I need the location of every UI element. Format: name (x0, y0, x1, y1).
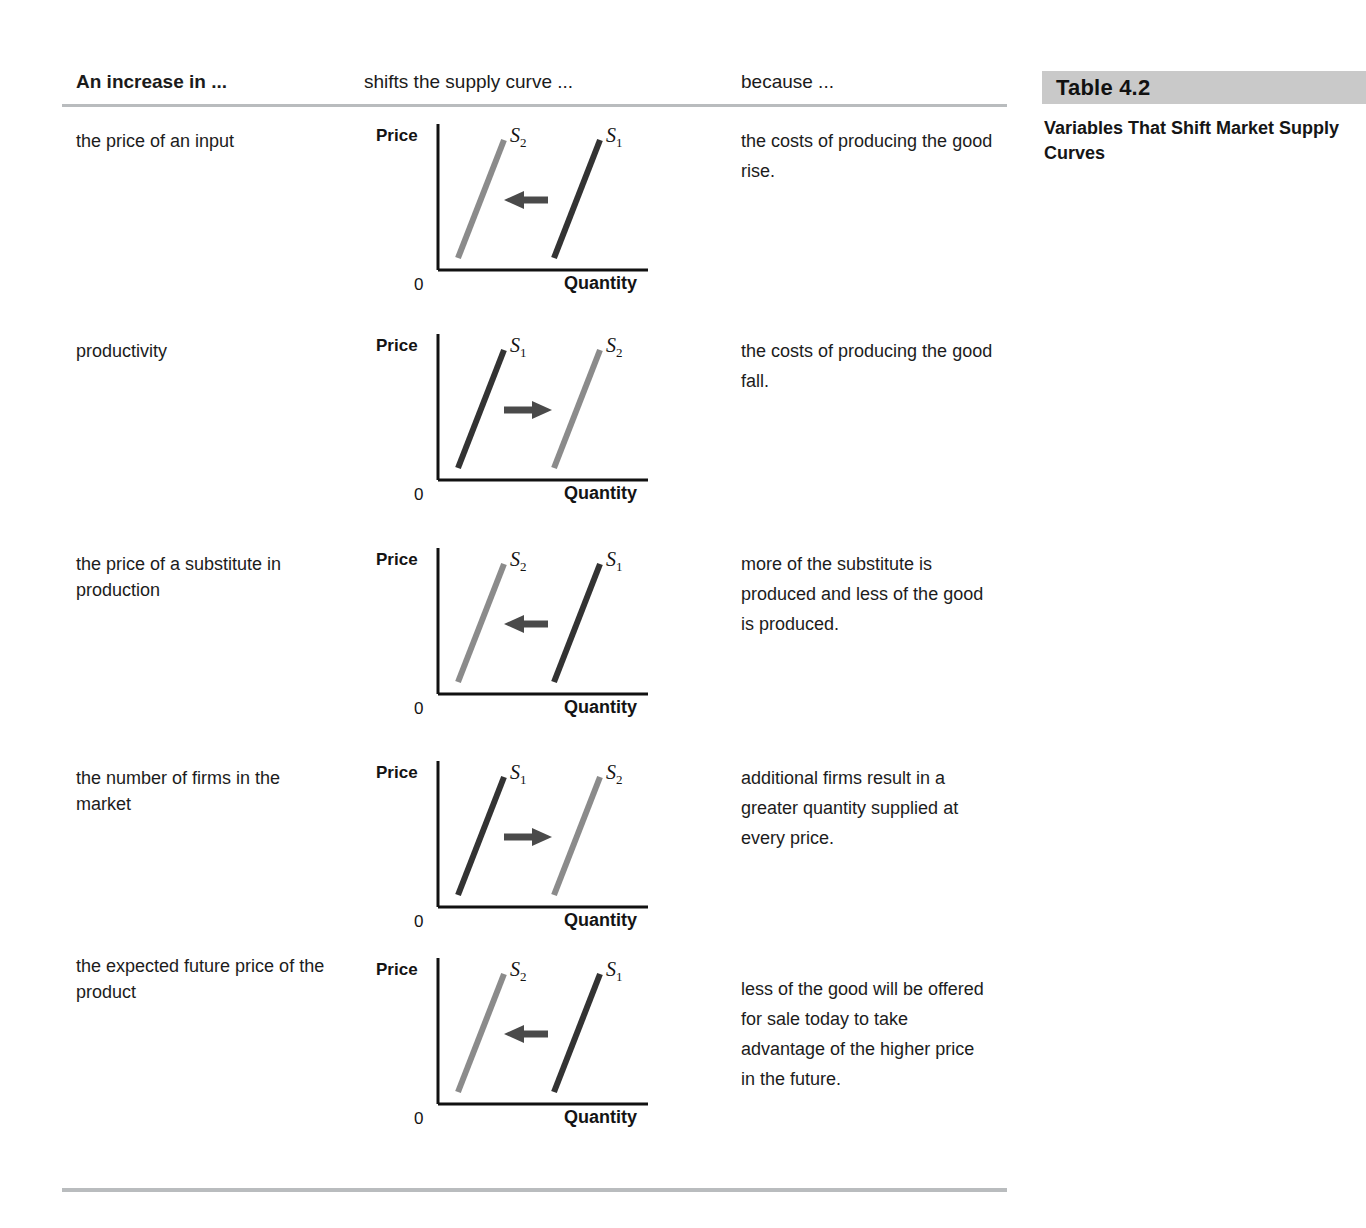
axis-label-price: Price (376, 960, 418, 980)
table-page: Table 4.2 Variables That Shift Market Su… (0, 0, 1366, 1228)
supply-shift-diagram: Price0QuantityS1S2 (376, 755, 676, 935)
curve-label-s1: S1 (510, 761, 527, 788)
axis-label-quantity: Quantity (564, 910, 637, 931)
curve-label-s1: S1 (510, 334, 527, 361)
axis-origin-label: 0 (414, 275, 423, 295)
header-divider-rule (62, 104, 1007, 107)
supply-shift-diagram: Price0QuantityS2S1 (376, 952, 676, 1132)
axis-label-price: Price (376, 763, 418, 783)
curve-label-s1: S1 (606, 548, 623, 575)
curve-label-s2: S2 (510, 124, 527, 151)
cell-because: more of the substitute is produced and l… (741, 549, 993, 639)
axis-label-price: Price (376, 550, 418, 570)
cell-cause: the number of firms in the market (76, 765, 338, 817)
cell-cause: the price of an input (76, 128, 338, 154)
cell-because: additional firms result in a greater qua… (741, 763, 993, 853)
cell-cause: productivity (76, 338, 338, 364)
axis-origin-label: 0 (414, 1109, 423, 1129)
curve-label-s1: S1 (606, 958, 623, 985)
cell-cause: the expected future price of the product (76, 953, 338, 1005)
supply-shift-diagram: Price0QuantityS1S2 (376, 328, 676, 508)
footer-divider-rule (62, 1188, 1007, 1192)
curve-label-s2: S2 (510, 958, 527, 985)
supply-shift-diagram: Price0QuantityS2S1 (376, 118, 676, 298)
cell-cause: the price of a substitute in production (76, 551, 338, 603)
curve-label-s2: S2 (606, 334, 623, 361)
axis-label-quantity: Quantity (564, 1107, 637, 1128)
axis-origin-label: 0 (414, 699, 423, 719)
table-caption-title: Variables That Shift Market Supply Curve… (1044, 116, 1354, 166)
cell-because: the costs of producing the good fall. (741, 336, 993, 396)
axis-label-quantity: Quantity (564, 697, 637, 718)
column-header-shift: shifts the supply curve ... (364, 71, 573, 93)
axis-origin-label: 0 (414, 912, 423, 932)
cell-because: less of the good will be offered for sal… (741, 974, 993, 1094)
curve-label-s1: S1 (606, 124, 623, 151)
column-header-because: because ... (741, 71, 834, 93)
axis-label-quantity: Quantity (564, 483, 637, 504)
table-number-label: Table 4.2 (1056, 75, 1150, 101)
axis-label-quantity: Quantity (564, 273, 637, 294)
cell-because: the costs of producing the good rise. (741, 126, 993, 186)
axis-label-price: Price (376, 126, 418, 146)
axis-label-price: Price (376, 336, 418, 356)
curve-label-s2: S2 (606, 761, 623, 788)
axis-origin-label: 0 (414, 485, 423, 505)
supply-shift-diagram: Price0QuantityS2S1 (376, 542, 676, 722)
column-header-cause: An increase in ... (76, 71, 227, 93)
table-number-band: Table 4.2 (1042, 71, 1366, 104)
curve-label-s2: S2 (510, 548, 527, 575)
